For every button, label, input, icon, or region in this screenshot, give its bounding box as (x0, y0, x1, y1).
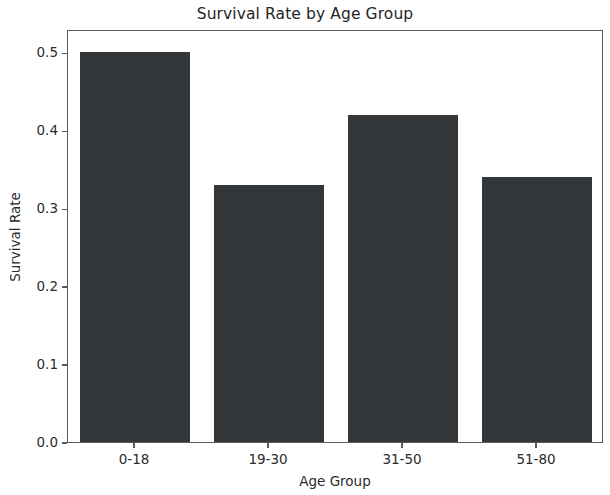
y-tick-label: 0.2 (37, 278, 58, 294)
x-tick-mark (401, 443, 402, 448)
x-tick-label: 19-30 (208, 451, 328, 467)
x-tick-mark (133, 443, 134, 448)
bar (482, 177, 592, 442)
bar (80, 52, 190, 442)
chart-title: Survival Rate by Age Group (0, 5, 610, 23)
y-tick-mark (62, 286, 67, 287)
x-tick-mark (535, 443, 536, 448)
x-axis-label: Age Group (67, 473, 603, 489)
y-tick-label: 0.0 (37, 434, 58, 450)
y-tick-mark (62, 209, 67, 210)
x-tick-label: 0-18 (74, 451, 194, 467)
y-tick-label: 0.3 (37, 200, 58, 216)
y-axis-label: Survival Rate (7, 167, 23, 307)
y-tick-mark (62, 364, 67, 365)
y-tick-mark (62, 131, 67, 132)
bar-chart-figure: Survival Rate by Age Group 0.00.10.20.30… (0, 0, 610, 495)
y-tick-mark (62, 442, 67, 443)
y-tick-label: 0.1 (37, 356, 58, 372)
x-tick-label: 31-50 (342, 451, 462, 467)
y-tick-label: 0.4 (37, 122, 58, 138)
plot-area (67, 30, 603, 443)
x-tick-label: 51-80 (476, 451, 596, 467)
bars-layer (68, 31, 602, 442)
bar (348, 115, 458, 442)
y-tick-label: 0.5 (37, 44, 58, 60)
x-tick-mark (267, 443, 268, 448)
y-tick-mark (62, 53, 67, 54)
bar (214, 185, 324, 442)
